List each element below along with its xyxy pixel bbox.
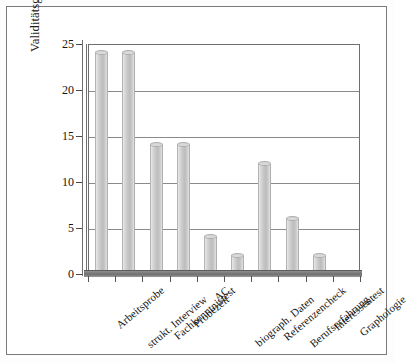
x-axis-tick-label: Arbeitsprobe	[113, 284, 166, 331]
